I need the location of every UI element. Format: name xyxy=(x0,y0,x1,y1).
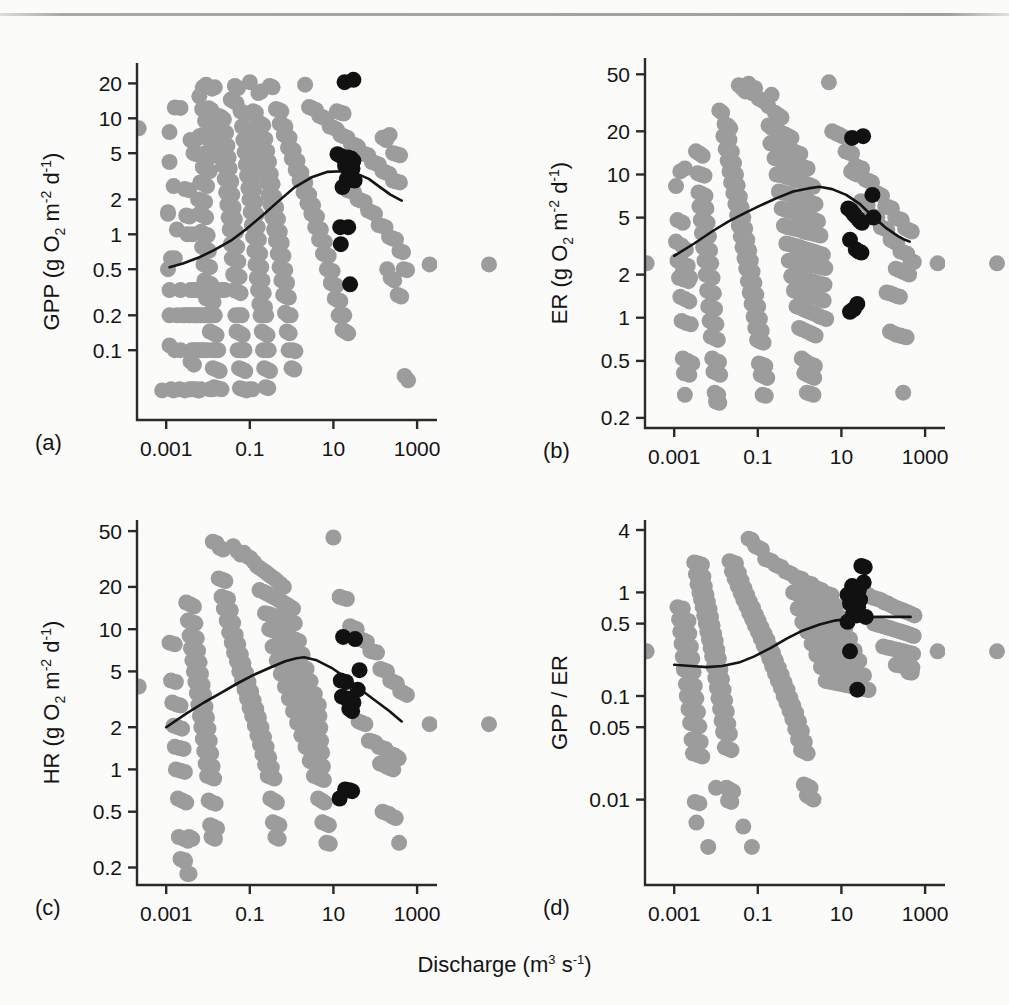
data-point-gray xyxy=(236,342,252,358)
y-tick-label: 10 xyxy=(99,107,122,130)
data-point-gray xyxy=(186,599,202,615)
data-point-gray xyxy=(321,817,337,833)
x-tick-label: 0.001 xyxy=(648,902,701,925)
y-tick-label: 1 xyxy=(110,223,122,246)
data-point-gray xyxy=(712,367,728,383)
panel-d-plot: 410.50.10.050.010.0010.1101000GPP / ER(d… xyxy=(525,492,1009,947)
data-point-gray xyxy=(677,387,693,403)
data-point-gray xyxy=(131,120,147,136)
data-point-gray xyxy=(281,342,297,358)
y-tick-label: 0.05 xyxy=(589,716,630,739)
y-axis-title-part: -1 xyxy=(38,628,54,641)
x-tick-label: 1000 xyxy=(394,437,441,460)
data-point-gray xyxy=(173,698,189,714)
y-tick-label: 0.5 xyxy=(93,800,122,823)
data-point-gray xyxy=(817,260,833,276)
data-point-gray xyxy=(162,154,178,170)
y-tick-label: 0.5 xyxy=(601,349,630,372)
data-point-focal xyxy=(855,128,871,144)
y-tick-label: 20 xyxy=(99,575,122,598)
data-point-gray xyxy=(808,196,824,212)
y-tick-label: 1 xyxy=(110,758,122,781)
data-point-gray xyxy=(317,795,333,811)
data-point-gray xyxy=(735,819,751,835)
data-point-gray xyxy=(336,106,352,122)
y-tick-label: 4 xyxy=(618,519,630,542)
data-point-gray xyxy=(723,794,739,810)
x-tick-label: 10 xyxy=(322,437,345,460)
data-point-gray xyxy=(813,228,829,244)
data-point-gray xyxy=(186,357,202,373)
data-point-gray xyxy=(316,772,332,788)
data-point-focal xyxy=(332,791,348,807)
y-axis-title-part: -2 xyxy=(38,659,54,672)
data-point-gray xyxy=(682,270,698,286)
data-point-gray xyxy=(207,831,223,847)
y-tick-label: 5 xyxy=(618,206,630,229)
y-tick-label: 0.5 xyxy=(601,612,630,635)
data-point-focal xyxy=(842,643,858,659)
panel-label-b: (b) xyxy=(543,438,570,463)
y-tick-label: 0.2 xyxy=(601,406,630,429)
data-point-gray xyxy=(681,367,697,383)
data-point-outlier xyxy=(989,643,1005,659)
y-tick-label: 1 xyxy=(618,581,630,604)
data-point-gray xyxy=(675,215,691,231)
points-group xyxy=(639,531,946,855)
y-tick-label: 50 xyxy=(99,520,122,543)
data-point-gray xyxy=(688,815,704,831)
data-point-gray xyxy=(208,796,224,812)
y-axis-title-part: d xyxy=(39,641,64,659)
data-point-gray xyxy=(681,293,697,309)
data-point-gray xyxy=(176,741,192,757)
data-point-gray xyxy=(340,325,356,341)
data-point-gray xyxy=(895,385,911,401)
data-point-gray xyxy=(392,174,408,190)
data-point-gray xyxy=(800,745,816,761)
data-point-gray xyxy=(904,665,920,681)
data-point-focal xyxy=(840,614,856,630)
data-point-gray xyxy=(700,839,716,855)
figure-four-panel-scatter: 20105210.50.20.10.0010.1101000GPP (g O2 … xyxy=(0,0,1009,1005)
data-point-gray xyxy=(399,262,415,278)
data-point-gray xyxy=(206,771,222,787)
data-point-gray xyxy=(217,573,233,589)
data-point-gray xyxy=(930,255,946,271)
points-group xyxy=(639,74,946,411)
y-tick-label: 10 xyxy=(99,618,122,641)
panel-label-a: (a) xyxy=(35,430,62,455)
data-point-gray xyxy=(283,307,299,323)
data-point-gray xyxy=(265,79,281,95)
data-point-gray xyxy=(233,285,249,301)
y-axis-title-part: 2 xyxy=(52,696,68,704)
x-tick-label: 0.001 xyxy=(648,445,701,468)
panel-d: 410.50.10.050.010.0010.1101000GPP / ER(d… xyxy=(525,492,1009,947)
data-point-gray xyxy=(711,395,727,411)
x-tick-label: 1000 xyxy=(902,445,949,468)
panel-c: 5020105210.50.20.0010.1101000HR (g O2 m-… xyxy=(17,492,507,947)
x-tick-label: 1000 xyxy=(902,902,949,925)
data-point-gray xyxy=(173,100,189,116)
data-point-gray xyxy=(399,687,415,703)
y-axis-title-part: 2 xyxy=(560,237,576,245)
data-point-gray xyxy=(806,370,822,386)
data-point-gray xyxy=(756,335,772,351)
y-axis-title-part: m xyxy=(39,203,64,227)
data-point-gray xyxy=(694,749,710,765)
data-point-gray xyxy=(758,388,774,404)
data-point-gray xyxy=(336,307,352,323)
y-axis-title-part: ) xyxy=(39,153,64,160)
data-point-focal xyxy=(340,219,356,235)
data-point-gray xyxy=(322,836,338,852)
y-axis-title-part: -1 xyxy=(546,169,562,182)
data-point-gray xyxy=(212,363,228,379)
y-tick-label: 20 xyxy=(99,72,122,95)
data-point-gray xyxy=(234,307,250,323)
data-point-gray xyxy=(806,792,822,808)
y-tick-label: 2 xyxy=(618,263,630,286)
y-axis-title-part: ER (g O xyxy=(547,245,572,324)
data-point-gray xyxy=(174,721,190,737)
data-point-focal xyxy=(846,301,862,317)
data-point-gray xyxy=(162,124,178,140)
data-point-gray xyxy=(205,307,221,323)
